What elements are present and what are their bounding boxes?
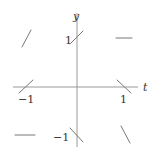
slope-segment-tneg1-y1	[22, 30, 31, 47]
t-tick-label-1: 1	[120, 93, 127, 106]
slope-field-diagram: y t −1 1 1 −1	[0, 0, 160, 159]
y-tick-label-1: 1	[65, 34, 72, 47]
slope-segment-t1-yneg1	[121, 126, 130, 143]
y-axis-label: y	[72, 10, 80, 23]
y-tick-label-neg1: −1	[53, 131, 69, 144]
t-tick-label-neg1: −1	[18, 93, 34, 106]
t-axis-label: t	[143, 81, 148, 94]
